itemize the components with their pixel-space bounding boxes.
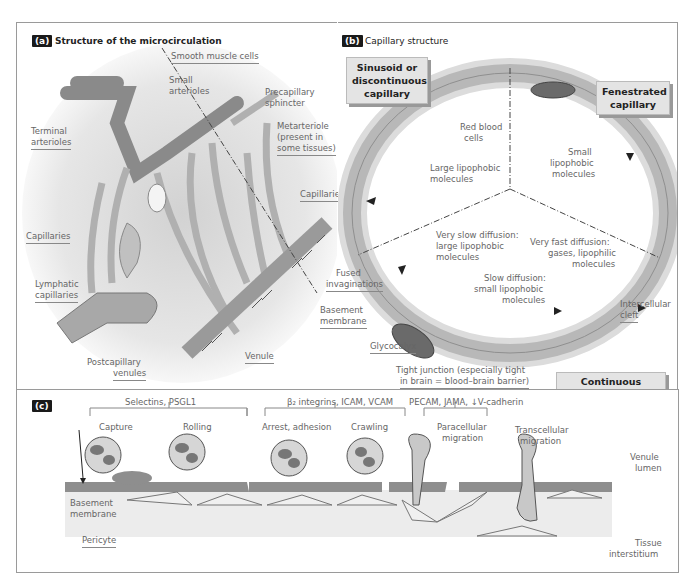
label-large-lipo-1: Large lipophobic [430,163,500,174]
label-precapillary-2: sphincter [265,98,305,109]
label-smooth-muscle: Smooth muscle cells [171,51,259,64]
label-postcapillary-1: Postcapillary [87,357,141,368]
label-glycocalyx: Glycocalyx [370,341,416,354]
step-crawling: Crawling [351,422,388,433]
label-metarteriole-3: some tissues) [277,143,336,156]
box-sinusoid-line-1: Sinusoid or [352,61,422,74]
label-fused-2: invaginations [326,279,383,292]
label-very-slow-1: Very slow diffusion: [436,230,519,241]
label-slow-2: small lipophobic [474,284,543,295]
label-pericyte: Pericyte [82,535,116,548]
step-transcellular-1: Transcellular [515,425,569,436]
label-rbc-2: cells [464,133,483,144]
label-basement-2: membrane [320,316,367,329]
label-very-fast-1: Very fast diffusion: [530,237,610,248]
box-fenestrated-line-2: capillary [602,98,664,111]
label-lymphatic-2: capillaries [35,290,78,303]
label-venule-lumen-2: lumen [635,463,662,474]
label-very-slow-3: molecules [436,252,479,263]
label-venule-lumen-1: Venule [630,452,659,463]
box-sinusoid-line-3: capillary [352,87,422,100]
box-sinusoid-capillary: Sinusoid or discontinuous capillary [346,57,428,104]
label-small-arterioles-2: arterioles [169,86,209,97]
label-large-lipo-2: molecules [430,174,473,185]
label-very-slow-2: large lipophobic [436,241,504,252]
label-intercellular-1: Intercellular [620,299,671,310]
label-basement-1: Basement [320,305,363,316]
group-pecam-label: PECAM, JAMA, ↓V-cadherin [409,397,523,408]
label-small-lipo-3: molecules [552,169,595,180]
box-fenestrated-capillary: Fenestrated capillary [596,81,670,115]
label-small-lipo-1: Small [568,147,592,158]
label-terminal-1: Terminal [31,126,67,137]
label-tissue-2: interstitium [609,549,658,560]
step-transcellular-2: migration [520,436,561,447]
label-small-lipo-2: lipophobic [550,158,594,169]
step-arrest-adhesion: Arrest, adhesion [262,422,331,433]
label-rbc-1: Red blood [460,122,502,133]
step-rolling: Rolling [183,422,212,433]
box-fenestrated-line-1: Fenestrated [602,85,664,98]
label-postcapillary-2: venules [113,368,146,381]
label-slow-1: Slow diffusion: [484,273,546,284]
panel-c-tag: (c) [32,400,52,412]
label-metarteriole-2: (present in [277,132,323,143]
group-integrins-label: β₂ integrins, ICAM, VCAM [287,397,393,408]
panel-microcirculation: (a) Structure of the microcirculation Sm… [16,22,337,390]
panel-b-tag: (b) [342,35,363,47]
label-tight-junction-2: in brain = blood–brain barrier) [400,376,529,389]
panel-a-tag: (a) [32,35,52,47]
label-tissue-1: Tissue [635,538,662,549]
box-sinusoid-line-2: discontinuous [352,74,422,87]
label-intercellular-2: cleft [620,310,638,323]
group-selectins-label: Selectins, PSGL1 [125,397,196,408]
panel-leukocyte-migration: (c) Selectins, PSGL1 β₂ integrins, ICAM,… [16,389,679,573]
panel-capillary-structure: (b) Capillary structure Sinusoid or disc… [338,22,678,390]
label-very-fast-3: molecules [572,259,615,270]
label-fused-1: Fused [336,268,361,279]
label-tight-junction-1: Tight junction (especially tight [396,365,525,376]
label-capillaries-left: Capillaries [26,231,70,244]
label-basement-membrane-1: Basement [70,498,113,509]
label-venule: Venule [245,351,274,364]
step-capture: Capture [99,422,133,433]
label-slow-3: molecules [502,295,545,306]
label-lymphatic-1: Lymphatic [35,279,79,290]
label-precapillary-1: Precapillary [265,87,315,98]
step-paracellular-1: Paracellular [437,422,487,433]
label-terminal-2: arterioles [31,137,71,150]
label-basement-membrane-2: membrane [70,509,117,520]
label-small-arterioles-1: Small [169,75,193,86]
label-metarteriole-1: Metarteriole [277,121,329,132]
label-very-fast-2: gases, lipophilic [548,248,616,259]
panel-b-title: Capillary structure [365,36,448,46]
panel-a-title: Structure of the microcirculation [55,36,222,46]
step-paracellular-2: migration [442,433,483,444]
